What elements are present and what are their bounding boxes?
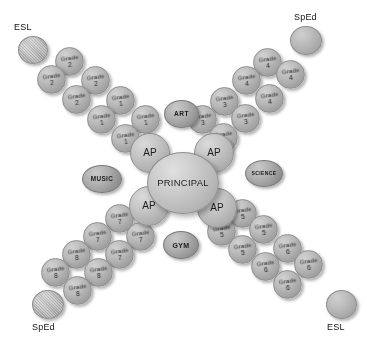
- grade-node[interactable]: Grade8: [63, 276, 92, 305]
- corner-label-sped-bottom-left: SpEd: [32, 322, 55, 332]
- grade-node[interactable]: Grade2: [62, 85, 91, 114]
- specialist-label: MUSIC: [91, 176, 114, 182]
- ap-label: AP: [207, 148, 220, 158]
- principal-label: PRINCIPAL: [157, 178, 209, 187]
- ap-label: AP: [142, 201, 155, 211]
- corner-label-sped-top-right: SpEd: [294, 12, 317, 22]
- support-node-esl-top-left[interactable]: [18, 36, 48, 64]
- specialist-label: GYM: [172, 242, 189, 249]
- specialist-label: ART: [174, 111, 189, 118]
- corner-label-esl-top-left: ESL: [14, 22, 32, 32]
- grade-node[interactable]: Grade4: [276, 60, 305, 89]
- principal-node[interactable]: PRINCIPAL: [147, 152, 219, 214]
- grade-node[interactable]: Grade2: [37, 65, 66, 94]
- org-chart-canvas: ESL SpEd SpEd ESL Grade2 Grade2 Grade2 G…: [0, 0, 367, 346]
- grade-node[interactable]: Grade6: [273, 270, 302, 299]
- ap-label: AP: [143, 148, 156, 158]
- corner-label-esl-bottom-right: ESL: [327, 322, 345, 332]
- support-node-sped-bottom-left[interactable]: [32, 290, 64, 319]
- specialist-node-science[interactable]: SCIENCE: [245, 160, 283, 187]
- support-node-sped-top-right[interactable]: [290, 26, 322, 55]
- ap-label: AP: [210, 203, 223, 213]
- specialist-node-music[interactable]: MUSIC: [82, 165, 122, 193]
- grade-node[interactable]: Grade1: [87, 105, 116, 134]
- specialist-node-gym[interactable]: GYM: [163, 231, 199, 259]
- support-node-esl-bottom-right[interactable]: [326, 290, 357, 319]
- grade-node[interactable]: Grade4: [255, 84, 284, 113]
- specialist-node-art[interactable]: ART: [164, 100, 199, 128]
- specialist-label: SCIENCE: [251, 171, 276, 176]
